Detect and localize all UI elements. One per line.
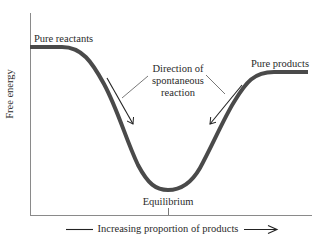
pure-products-label: Pure products (251, 58, 309, 69)
direction-label-line3: reaction (138, 87, 218, 98)
equilibrium-label: Equilibrium (128, 196, 208, 207)
pure-reactants-label: Pure reactants (34, 33, 93, 44)
direction-label-line1: Direction of (138, 63, 218, 74)
y-axis-label: Free energy (4, 64, 15, 124)
x-axis-label: Increasing proportion of products (90, 223, 246, 234)
direction-label-line2: spontaneous (138, 75, 218, 86)
